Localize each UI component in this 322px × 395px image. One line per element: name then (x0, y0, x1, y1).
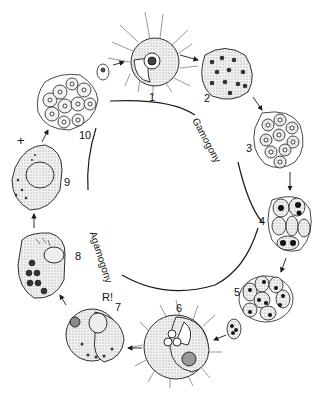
stage-label-3: 3 (246, 143, 252, 154)
stage-8-cell (18, 233, 65, 298)
small-embryo (227, 319, 241, 339)
stage-label-8: 8 (75, 251, 81, 262)
diagram-artwork (0, 0, 322, 395)
reduction-division-mark: R! (102, 292, 113, 303)
stage-3-cell (254, 112, 303, 168)
stage-label-9: 9 (64, 177, 70, 188)
stage-6-cell (128, 300, 222, 388)
stage-label-2: 2 (204, 93, 210, 104)
stage-label-6: 6 (176, 303, 182, 314)
stage-9-cell (12, 145, 62, 210)
agamogony-arc (88, 128, 258, 291)
plus-mark: + (17, 134, 25, 147)
stage-label-5: 5 (234, 287, 240, 298)
stage-10-cell (37, 74, 98, 130)
stage-label-1: 1 (149, 92, 155, 103)
stage-label-7: 7 (115, 302, 121, 313)
stage-4-cell (268, 197, 311, 252)
life-cycle-diagram: 1 2 3 4 5 6 7 8 9 10 R! + Gamogony Agamo… (0, 0, 322, 395)
stage-label-10: 10 (79, 130, 91, 141)
stage-1-cell (108, 12, 198, 96)
stage-5-cell (239, 276, 293, 322)
stage-label-4: 4 (259, 216, 265, 227)
gamogony-arc (110, 101, 262, 222)
stage-7-cell (66, 309, 124, 362)
gamete-small (97, 64, 109, 80)
